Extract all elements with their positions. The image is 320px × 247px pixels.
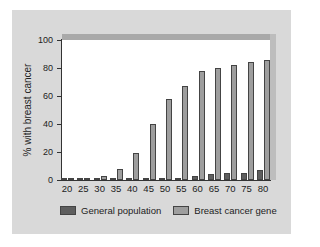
bar-breast-cancer-gene xyxy=(231,65,237,180)
x-tick-label: 65 xyxy=(206,183,222,194)
legend-swatch-general xyxy=(60,206,76,215)
bar-breast-cancer-gene xyxy=(150,124,156,180)
legend-swatch-gene xyxy=(173,206,189,215)
y-tick-label: 0 xyxy=(48,175,53,185)
legend: General population Breast cancer gene xyxy=(60,205,289,216)
legend-label: Breast cancer gene xyxy=(194,205,276,216)
x-tick-label: 20 xyxy=(59,183,75,194)
bar-breast-cancer-gene xyxy=(68,178,74,180)
bar-general-population xyxy=(192,176,198,180)
bar-general-population xyxy=(224,173,230,180)
bar-general-population xyxy=(143,178,149,180)
bar-general-population xyxy=(257,170,263,180)
bar-general-population xyxy=(126,178,132,180)
bar-general-population xyxy=(241,173,247,180)
bar-general-population xyxy=(110,178,116,180)
x-tick-label: 60 xyxy=(190,183,206,194)
y-tick-label: 60 xyxy=(43,91,53,101)
bar-breast-cancer-gene xyxy=(182,86,188,180)
bar-general-population xyxy=(159,178,165,180)
x-tick-label: 40 xyxy=(124,183,140,194)
bar-general-population xyxy=(94,178,100,180)
y-tick-label: 20 xyxy=(43,147,53,157)
bar-general-population xyxy=(208,174,214,180)
x-tick-label: 45 xyxy=(141,183,157,194)
y-tick-label: 100 xyxy=(38,35,53,45)
x-tick-label: 25 xyxy=(75,183,91,194)
bar-breast-cancer-gene xyxy=(101,176,107,180)
x-tick-label: 80 xyxy=(255,183,271,194)
plot-shadow-right xyxy=(270,34,276,180)
legend-item-breast-cancer-gene: Breast cancer gene xyxy=(173,205,276,216)
legend-label: General population xyxy=(81,205,161,216)
x-tick-label: 75 xyxy=(239,183,255,194)
bar-breast-cancer-gene xyxy=(199,71,205,180)
x-tick-label: 50 xyxy=(157,183,173,194)
y-tick-mark xyxy=(57,68,61,69)
y-tick-mark xyxy=(57,40,61,41)
x-tick-label: 70 xyxy=(222,183,238,194)
y-tick-mark xyxy=(57,152,61,153)
y-axis xyxy=(61,39,62,181)
y-axis-title: % with breast cancer xyxy=(22,64,33,157)
bar-breast-cancer-gene xyxy=(215,68,221,180)
bar-general-population xyxy=(61,178,67,180)
bar-breast-cancer-gene xyxy=(117,169,123,180)
bar-general-population xyxy=(77,178,83,180)
bar-breast-cancer-gene xyxy=(84,178,90,180)
y-tick-mark xyxy=(57,180,61,181)
x-axis xyxy=(61,180,271,181)
x-tick-label: 30 xyxy=(92,183,108,194)
y-tick-mark xyxy=(57,96,61,97)
x-tick-label: 35 xyxy=(108,183,124,194)
y-tick-mark xyxy=(57,124,61,125)
bar-breast-cancer-gene xyxy=(248,62,254,180)
legend-item-general-population: General population xyxy=(60,205,161,216)
bar-breast-cancer-gene xyxy=(133,153,139,180)
y-tick-label: 40 xyxy=(43,119,53,129)
bar-breast-cancer-gene xyxy=(264,60,270,180)
x-tick-label: 55 xyxy=(173,183,189,194)
bar-breast-cancer-gene xyxy=(166,99,172,180)
bar-general-population xyxy=(175,178,181,180)
y-tick-label: 80 xyxy=(43,63,53,73)
